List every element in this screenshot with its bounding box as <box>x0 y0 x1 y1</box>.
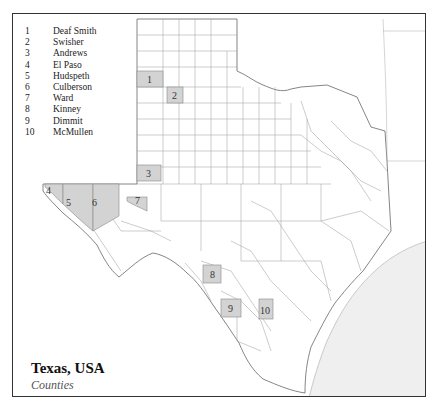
legend-county-name: Culberson <box>53 82 92 93</box>
map-title: Texas, USA <box>31 360 105 377</box>
label-2: 2 <box>172 90 177 101</box>
label-8: 8 <box>210 269 215 280</box>
legend-county-name: Swisher <box>53 37 84 48</box>
legend-number: 10 <box>25 127 53 138</box>
legend-item: 7Ward <box>25 93 97 104</box>
legend-county-name: Dimmit <box>53 116 83 127</box>
label-1: 1 <box>147 74 152 85</box>
label-3: 3 <box>146 168 151 179</box>
legend-county-name: Andrews <box>53 48 87 59</box>
state-boundaries <box>383 19 426 161</box>
map-subtitle: Counties <box>31 378 105 393</box>
map-title-block: Texas, USA Counties <box>31 360 105 393</box>
legend-number: 4 <box>25 60 53 71</box>
legend-item: 4El Paso <box>25 60 97 71</box>
label-7: 7 <box>135 195 140 206</box>
legend-number: 2 <box>25 37 53 48</box>
legend-county-name: Ward <box>53 93 73 104</box>
legend-item: 5Hudspeth <box>25 71 97 82</box>
legend-number: 6 <box>25 82 53 93</box>
map-frame: 1 2 3 4 5 6 7 8 9 10 1Deaf Smith 2Swishe… <box>12 13 426 397</box>
label-10: 10 <box>260 305 270 316</box>
legend-item: 9Dimmit <box>25 116 97 127</box>
legend-item: 6Culberson <box>25 82 97 93</box>
legend-county-name: McMullen <box>53 127 93 138</box>
legend-county-name: El Paso <box>53 60 82 71</box>
legend-number: 1 <box>25 26 53 37</box>
legend-county-name: Kinney <box>53 104 81 115</box>
legend-number: 3 <box>25 48 53 59</box>
legend-county-name: Deaf Smith <box>53 26 97 37</box>
legend-number: 8 <box>25 104 53 115</box>
county-legend: 1Deaf Smith 2Swisher 3Andrews 4El Paso 5… <box>25 26 97 138</box>
legend-county-name: Hudspeth <box>53 71 89 82</box>
legend-item: 10McMullen <box>25 127 97 138</box>
legend-item: 1Deaf Smith <box>25 26 97 37</box>
legend-item: 2Swisher <box>25 37 97 48</box>
legend-number: 7 <box>25 93 53 104</box>
legend-number: 5 <box>25 71 53 82</box>
label-5: 5 <box>66 197 71 208</box>
label-4: 4 <box>46 185 51 196</box>
legend-item: 8Kinney <box>25 104 97 115</box>
legend-item: 3Andrews <box>25 48 97 59</box>
legend-number: 9 <box>25 116 53 127</box>
label-9: 9 <box>228 303 233 314</box>
label-6: 6 <box>92 197 97 208</box>
